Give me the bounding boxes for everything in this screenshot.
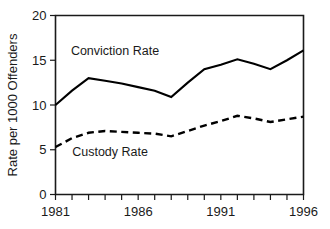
x-tick-label: 1996 (289, 204, 318, 219)
x-axis-tick-labels: 1981198619911996 (41, 204, 318, 219)
series-conviction-rate (56, 50, 304, 105)
y-tick-label: 0 (39, 187, 46, 202)
series-custody-rate (56, 116, 304, 147)
y-tick-label: 5 (39, 142, 46, 157)
x-tick-label: 1981 (41, 204, 70, 219)
y-tick-label: 20 (32, 8, 46, 23)
y-axis-ticks (50, 16, 56, 195)
y-tick-label: 15 (32, 53, 46, 68)
x-tick-label: 1986 (124, 204, 153, 219)
y-tick-label: 10 (32, 98, 46, 113)
series-annotation-label: Custody Rate (72, 145, 148, 159)
data-series-group (56, 50, 304, 147)
x-axis-ticks (56, 195, 304, 201)
plot-frame (56, 16, 304, 195)
line-chart: 1981198619911996 05101520 Rate per 1000 … (0, 0, 330, 229)
y-axis-tick-labels: 05101520 (32, 8, 46, 202)
y-axis-title: Rate per 1000 Offenders (5, 33, 20, 176)
chart-container: 1981198619911996 05101520 Rate per 1000 … (0, 0, 330, 229)
series-annotations: Conviction RateCustody Rate (71, 44, 159, 159)
x-tick-label: 1991 (206, 204, 235, 219)
series-annotation-label: Conviction Rate (71, 44, 159, 58)
